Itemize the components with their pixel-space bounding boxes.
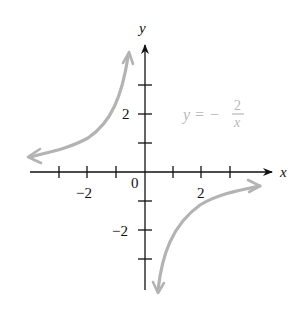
- curve-branch-upper-left: [30, 57, 128, 157]
- y-tick-label-2: 2: [122, 106, 130, 122]
- equation-denominator: x: [233, 115, 241, 130]
- x-axis-label: x: [279, 164, 287, 180]
- x-tick-label-neg2: −2: [76, 185, 92, 201]
- y-axis-label: y: [137, 20, 146, 36]
- y-tick-label-neg2: −2: [112, 223, 128, 239]
- equation-label: y = − 2 x: [181, 98, 244, 130]
- equation-numerator: 2: [234, 98, 241, 113]
- axes: [30, 45, 272, 290]
- curve-branch-lower-right: [158, 186, 260, 290]
- hyperbola-chart: x y 0 −2 2 2 −2 y = − 2 x: [0, 0, 303, 313]
- equation-lhs: y = −: [181, 106, 220, 124]
- origin-label: 0: [131, 175, 139, 191]
- x-tick-label-2: 2: [197, 185, 205, 201]
